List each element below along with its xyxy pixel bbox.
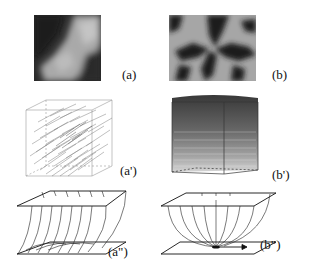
panel-b-prime-cube: [162, 92, 262, 180]
panel-a-prime-label: (a'): [120, 164, 137, 177]
grayscale-texture-a: [34, 15, 101, 81]
panel-b-prime-label: (b'): [272, 168, 290, 181]
panel-b-double-prime-sketch: [158, 192, 276, 258]
vector-cube-b-prime: [162, 92, 262, 180]
singularity-point: [212, 245, 220, 248]
panel-a-double-prime-label: (a"): [108, 245, 128, 258]
panel-b-image: [169, 15, 256, 81]
grayscale-texture-b: [169, 15, 256, 81]
panel-a-prime-cube: [20, 96, 120, 182]
panel-b-label: (b): [272, 68, 287, 81]
field-line-sketch-b-double-prime: [158, 192, 276, 258]
panel-a-label: (a): [122, 68, 136, 81]
vector-cube-a-prime: [20, 96, 120, 182]
arrow-icon: [220, 245, 247, 250]
panel-b-double-prime-label: (b"): [260, 238, 280, 251]
panel-a-image: [34, 15, 101, 81]
